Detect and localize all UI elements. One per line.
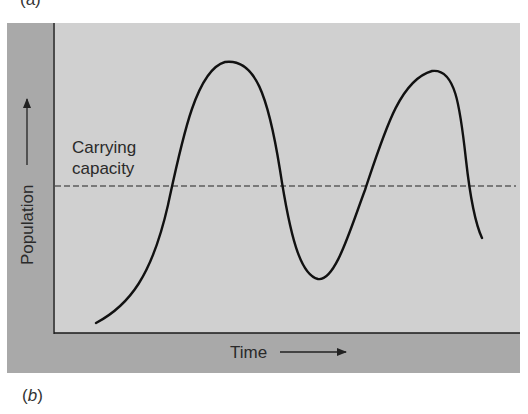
panel-label-b: (b) [22, 386, 43, 406]
panel-letter: b [28, 386, 37, 405]
plot-area [55, 23, 520, 333]
population-chart: Population Time Carrying capacity [0, 0, 528, 414]
paren-close: ) [37, 386, 43, 405]
carrying-capacity-label-line2: capacity [72, 159, 135, 178]
carrying-capacity-label-line1: Carrying [72, 138, 136, 157]
x-axis-label: Time [230, 343, 267, 362]
y-axis-label: Population [18, 185, 37, 265]
